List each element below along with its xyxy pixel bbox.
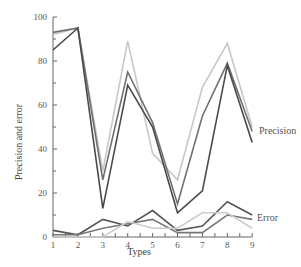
line-chart: 020406080100123456789 Precision and erro… — [0, 0, 301, 267]
x-axis-title: Types — [127, 246, 151, 257]
y-tick-label: 0 — [43, 232, 48, 242]
y-tick-label: 20 — [38, 188, 48, 198]
x-tick-label: 5 — [150, 240, 155, 250]
error-label: Error — [257, 212, 279, 223]
x-tick-label: 8 — [225, 240, 230, 250]
x-tick-label: 7 — [200, 240, 205, 250]
y-tick-label: 60 — [38, 100, 48, 110]
y-tick-label: 100 — [34, 12, 48, 22]
series-line — [53, 28, 252, 180]
x-tick-label: 3 — [101, 240, 106, 250]
x-tick-label: 6 — [175, 240, 180, 250]
y-tick-label: 80 — [38, 56, 48, 66]
precision-label: Precision — [259, 125, 296, 136]
x-tick-label: 1 — [51, 240, 56, 250]
series-line — [53, 28, 252, 204]
x-tick-label: 9 — [250, 240, 255, 250]
series-group — [53, 28, 252, 237]
y-tick-label: 40 — [38, 144, 48, 154]
labels-group: Precision and error Types Precision Erro… — [13, 103, 296, 257]
x-tick-label: 2 — [76, 240, 81, 250]
axes: 020406080100123456789 — [34, 12, 255, 250]
y-axis-title: Precision and error — [13, 103, 24, 180]
